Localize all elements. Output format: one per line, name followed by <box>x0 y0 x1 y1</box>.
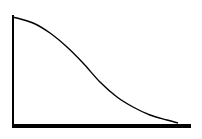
sigmoid-chart <box>0 0 202 139</box>
data-curve <box>13 17 178 123</box>
